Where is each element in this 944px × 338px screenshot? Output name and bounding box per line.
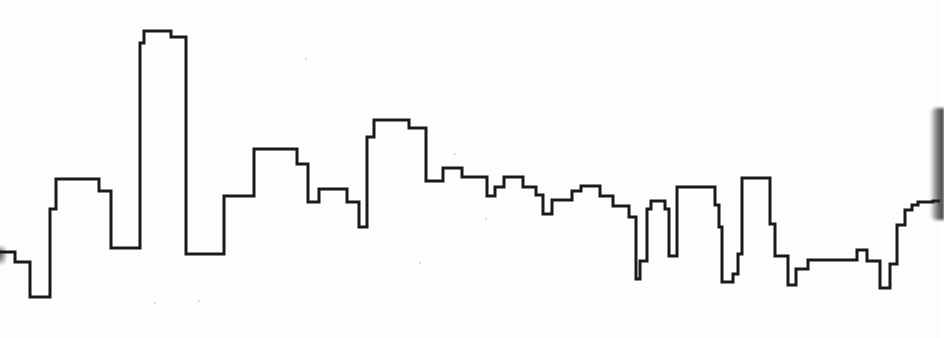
skyline-outline-line — [0, 31, 940, 297]
paper-speck — [485, 218, 487, 220]
paper-speck — [198, 300, 200, 302]
paper-speck — [305, 58, 307, 60]
paper-speck — [419, 262, 421, 264]
paper-speck — [154, 302, 156, 304]
left-edge-smudge — [0, 246, 6, 264]
paper-speck — [454, 153, 456, 155]
right-edge-smudge — [930, 108, 944, 220]
